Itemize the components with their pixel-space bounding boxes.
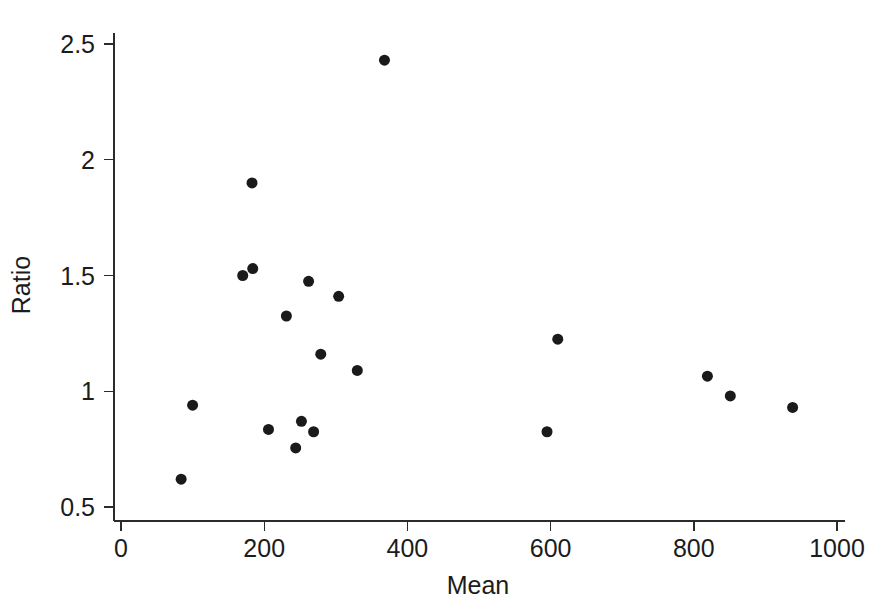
data-point [247, 177, 258, 188]
x-tick-label: 1000 [809, 534, 865, 562]
data-point [296, 416, 307, 427]
data-point [787, 402, 798, 413]
y-tick-label: 1.5 [60, 262, 95, 290]
data-point [263, 424, 274, 435]
data-point [725, 390, 736, 401]
x-tick-label: 800 [673, 534, 715, 562]
data-point [303, 276, 314, 287]
x-tick-label: 200 [243, 534, 285, 562]
data-point [352, 365, 363, 376]
y-axis-tick-labels: 0.511.522.5 [60, 30, 95, 521]
data-point [176, 474, 187, 485]
x-axis-ticks [121, 521, 837, 531]
data-point [315, 349, 326, 360]
data-point [702, 371, 713, 382]
y-axis-title: Ratio [7, 256, 35, 314]
y-tick-label: 2.5 [60, 30, 95, 58]
data-point [187, 400, 198, 411]
x-axis-title: Mean [447, 571, 510, 599]
data-point [308, 426, 319, 437]
y-tick-label: 0.5 [60, 493, 95, 521]
data-points-group [176, 55, 798, 485]
x-tick-label: 0 [114, 534, 128, 562]
x-tick-label: 400 [387, 534, 429, 562]
plot-canvas: 02004006008001000 0.511.522.5 Mean Ratio [0, 0, 884, 616]
scatter-plot-figure: 02004006008001000 0.511.522.5 Mean Ratio [0, 0, 884, 616]
data-point [290, 442, 301, 453]
data-point [247, 263, 258, 274]
data-point [281, 311, 292, 322]
data-point [237, 270, 248, 281]
data-point [542, 426, 553, 437]
data-point [552, 334, 563, 345]
data-point [333, 291, 344, 302]
x-axis-tick-labels: 02004006008001000 [114, 534, 865, 562]
y-tick-label: 1 [81, 377, 95, 405]
data-point [379, 55, 390, 66]
axes-group [114, 33, 845, 521]
x-tick-label: 600 [530, 534, 572, 562]
y-axis-ticks [104, 44, 114, 507]
y-tick-label: 2 [81, 146, 95, 174]
